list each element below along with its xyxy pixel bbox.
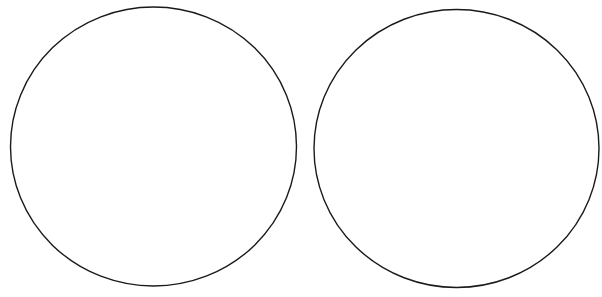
right-circle	[314, 10, 599, 288]
left-circle	[11, 7, 297, 286]
diagram-canvas	[0, 0, 602, 297]
